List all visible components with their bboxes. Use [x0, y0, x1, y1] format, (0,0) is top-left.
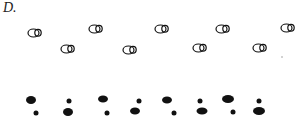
outline-footprint-icon: [253, 44, 266, 52]
stray-dot: [281, 56, 283, 58]
solid-small-footprint-icon: [257, 99, 262, 104]
solid-small-footprint-icon: [67, 99, 72, 104]
outline-footprint-icon: [155, 25, 168, 33]
solid-small-footprint-icon: [137, 99, 142, 104]
solid-large-footprint-icon: [222, 95, 234, 103]
solid-small-footprint-icon: [231, 110, 236, 115]
solid-large-footprint-icon: [63, 108, 73, 116]
outline-footprint-icon: [28, 29, 41, 37]
outline-footprint-icon: [193, 44, 206, 52]
solid-small-footprint-icon: [34, 111, 39, 116]
solid-large-footprint-icon: [197, 108, 208, 115]
solid-small-footprint-icon: [105, 111, 110, 116]
solid-large-footprint-icon: [253, 107, 265, 115]
solid-small-footprint-icon: [172, 111, 177, 116]
solid-large-footprint-icon: [98, 96, 108, 103]
solid-footprints-row: [26, 95, 265, 116]
solid-large-footprint-icon: [130, 108, 140, 115]
solid-large-footprint-icon: [26, 96, 36, 104]
solid-small-footprint-icon: [198, 99, 203, 104]
solid-large-footprint-icon: [162, 97, 172, 104]
outline-footprints-row: [28, 24, 294, 58]
outline-footprint-icon: [123, 46, 136, 54]
outline-footprint-icon: [216, 25, 229, 33]
outline-footprint-icon: [89, 25, 102, 33]
outline-footprint-icon: [281, 24, 294, 32]
outline-footprint-icon: [61, 45, 74, 53]
footprint-figure: [0, 0, 306, 121]
